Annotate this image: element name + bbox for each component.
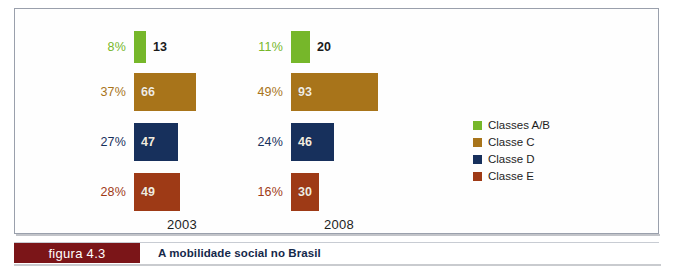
legend-swatch-icon bbox=[473, 172, 482, 181]
bar-percent-label: 8% bbox=[80, 40, 126, 54]
bar: 66 bbox=[134, 73, 196, 111]
bar-value-label: 93 bbox=[298, 85, 312, 99]
bar: 30 bbox=[291, 173, 319, 211]
bar-percent-label: 28% bbox=[80, 185, 126, 199]
group-axis-label: 2008 bbox=[291, 217, 387, 232]
legend-item: Classe D bbox=[473, 151, 550, 167]
legend-item-label: Classe C bbox=[488, 136, 535, 148]
bar-row: 37%66 bbox=[134, 73, 196, 111]
bar: 20 bbox=[291, 31, 310, 63]
bar-percent-label: 27% bbox=[80, 135, 126, 149]
bar-value-label: 20 bbox=[317, 40, 331, 54]
legend-item: Classe C bbox=[473, 134, 550, 150]
bar-percent-label: 24% bbox=[237, 135, 283, 149]
legend-item-label: Classe E bbox=[488, 170, 534, 182]
legend-item-label: Classes A/B bbox=[488, 119, 550, 131]
group-axis-label: 2003 bbox=[134, 217, 230, 232]
bar-row: 49%93 bbox=[291, 73, 378, 111]
bar-value-label: 30 bbox=[298, 185, 312, 199]
figure-panel: 8%1337%6627%4728%49200311%2049%9324%4616… bbox=[14, 8, 659, 234]
bar-row: 28%49 bbox=[134, 173, 180, 211]
bar-percent-label: 11% bbox=[237, 40, 283, 54]
legend-item: Classe E bbox=[473, 168, 550, 184]
bar-percent-label: 37% bbox=[80, 85, 126, 99]
bar-row: 16%30 bbox=[291, 173, 319, 211]
bar: 93 bbox=[291, 73, 378, 111]
legend-swatch-icon bbox=[473, 155, 482, 164]
bar-row: 24%46 bbox=[291, 123, 334, 161]
bar: 49 bbox=[134, 173, 180, 211]
bar-percent-label: 16% bbox=[237, 185, 283, 199]
bar: 46 bbox=[291, 123, 334, 161]
legend-swatch-icon bbox=[473, 138, 482, 147]
bar-value-label: 49 bbox=[141, 185, 155, 199]
chart-legend: Classes A/BClasse CClasse DClasse E bbox=[473, 117, 550, 185]
legend-swatch-icon bbox=[473, 121, 482, 130]
bar-value-label: 66 bbox=[141, 85, 155, 99]
legend-item: Classes A/B bbox=[473, 117, 550, 133]
bar-value-label: 46 bbox=[298, 135, 312, 149]
bar-value-label: 47 bbox=[141, 135, 155, 149]
figure-caption-bar: figura 4.3 A mobilidade social no Brasil bbox=[14, 242, 659, 263]
legend-item-label: Classe D bbox=[488, 153, 535, 165]
figure-number-tag: figura 4.3 bbox=[14, 243, 140, 263]
bar-row: 27%47 bbox=[134, 123, 178, 161]
bar-percent-label: 49% bbox=[237, 85, 283, 99]
bar: 47 bbox=[134, 123, 178, 161]
figure-caption-text: A mobilidade social no Brasil bbox=[140, 243, 659, 263]
bar: 13 bbox=[134, 31, 146, 63]
bar-row: 8%13 bbox=[134, 31, 146, 63]
bar-row: 11%20 bbox=[291, 31, 310, 63]
bar-value-label: 13 bbox=[153, 40, 167, 54]
bar-chart: 8%1337%6627%4728%49200311%2049%9324%4616… bbox=[15, 9, 658, 233]
